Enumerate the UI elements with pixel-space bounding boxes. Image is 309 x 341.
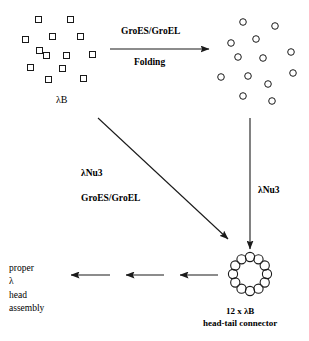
monomer-circle (228, 40, 235, 47)
monomer-circle (218, 74, 225, 81)
monomer-circle (253, 36, 260, 43)
ring-subunit (245, 286, 254, 295)
monomer-square (46, 77, 52, 83)
monomer-circle (265, 81, 272, 88)
monomer-square (81, 76, 87, 82)
monomer-square (50, 34, 56, 40)
folded-lambdaB-cluster (218, 19, 297, 105)
monomer-square (68, 17, 74, 23)
connector-caption-line-1: 12 x λB (203, 305, 277, 317)
monomer-circle (269, 98, 276, 105)
outcome-line-3: head (9, 289, 44, 302)
diagonal-arrow-label-chaperone: GroES/GroEL (81, 194, 140, 204)
monomer-circle (235, 54, 242, 61)
monomer-circle (288, 49, 295, 56)
monomer-square (23, 37, 29, 43)
diagram-graphics (0, 0, 309, 341)
unfolded-lambdaB-label: λB (56, 95, 68, 105)
proper-head-assembly-label: proper λ head assembly (9, 262, 44, 316)
ring-subunit (228, 269, 237, 278)
outcome-line-4: assembly (9, 302, 44, 315)
monomer-square (44, 53, 50, 59)
monomer-square (78, 34, 84, 40)
unfolded-lambdaB-cluster (23, 17, 96, 83)
monomer-circle (290, 70, 297, 77)
monomer-square (64, 53, 70, 59)
connector-caption: 12 x λB head-tail connector (203, 305, 277, 329)
ring-subunit (254, 284, 263, 293)
ring-subunit (260, 261, 269, 270)
ring-subunit (262, 269, 271, 278)
folding-arrow-label-top: GroES/GroEL (121, 27, 180, 37)
ring-subunit (231, 278, 240, 287)
ring-subunit (237, 255, 246, 264)
diagonal-assembly-arrow (98, 118, 228, 239)
monomer-square (36, 17, 42, 23)
vertical-arrow-label-nu3: λNu3 (258, 186, 280, 196)
monomer-circle (260, 55, 267, 62)
outcome-line-2: λ (9, 275, 44, 288)
assembly-pathway-diagram: GroES/GroEL Folding λB λNu3 GroES/GroEL … (0, 0, 309, 341)
monomer-square (37, 48, 43, 54)
outcome-line-1: proper (9, 262, 44, 275)
head-tail-connector-ring (228, 252, 271, 295)
ring-subunit (245, 252, 254, 261)
diagonal-arrow-label-nu3: λNu3 (81, 169, 103, 179)
monomer-square (28, 65, 34, 71)
monomer-circle (240, 93, 247, 100)
folding-arrow-label-bottom: Folding (134, 58, 165, 68)
connector-caption-line-2: head-tail connector (203, 317, 277, 329)
monomer-circle (240, 19, 247, 26)
monomer-square (90, 52, 96, 58)
monomer-circle (272, 23, 279, 30)
monomer-circle (245, 73, 252, 80)
monomer-square (60, 66, 66, 72)
